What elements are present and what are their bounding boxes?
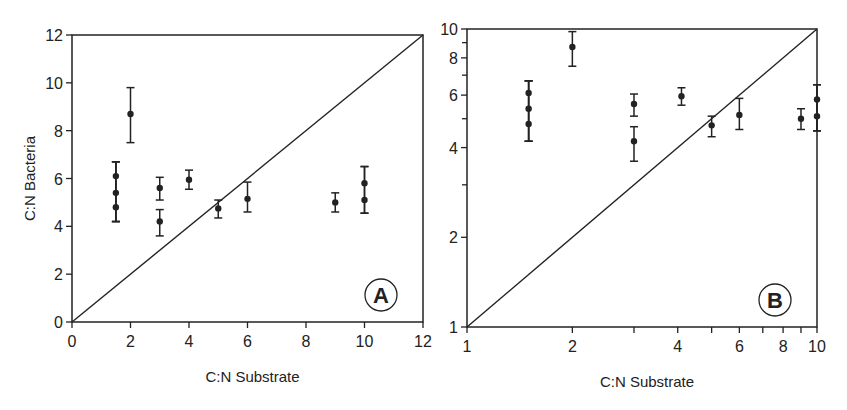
y-tick-label: 10 [440,21,458,38]
x-tick-label: 1 [463,338,472,355]
x-tick-label: 4 [185,333,194,350]
y-tick-label: 2 [54,266,63,283]
x-tick-label: 8 [302,333,311,350]
y-tick-label: 10 [45,75,63,92]
data-point [569,44,575,50]
x-tick-label: 10 [808,338,826,355]
y-tick-label: 6 [54,171,63,188]
y-tick-label: 6 [449,87,458,104]
x-tick-label: 4 [673,338,682,355]
x-axis-label: C:N Substrate [205,368,299,385]
y-tick-label: 4 [449,140,458,157]
data-point [244,196,250,202]
one-to-one-line [72,35,423,322]
data-point [814,113,820,119]
y-tick-label: 1 [449,319,458,336]
x-tick-label: 10 [356,333,374,350]
panel-a-scatter-linear: 024681012024681012C:N SubstrateC:N Bacte… [21,27,432,385]
x-tick-label: 8 [779,338,788,355]
data-point [157,185,163,191]
x-tick-label: 6 [243,333,252,350]
data-point [113,204,119,210]
x-tick-label: 12 [414,333,432,350]
figure: 024681012024681012C:N SubstrateC:N Bacte… [0,0,847,410]
data-point [332,199,338,205]
y-tick-label: 0 [54,314,63,331]
x-tick-label: 2 [126,333,135,350]
data-point [798,116,804,122]
y-tick-label: 8 [54,123,63,140]
data-point [127,111,133,117]
x-axis-label: C:N Substrate [600,373,694,390]
data-point [525,121,531,127]
data-point [157,218,163,224]
one-to-one-line [467,29,817,327]
data-point [186,176,192,182]
data-point [736,112,742,118]
y-tick-label: 8 [449,50,458,67]
x-tick-label: 0 [68,333,77,350]
panel-label: B [767,288,783,313]
y-tick-label: 2 [449,229,458,246]
data-point [361,197,367,203]
data-point [631,138,637,144]
data-point [708,122,714,128]
data-point [215,205,221,211]
y-tick-label: 4 [54,218,63,235]
y-axis-label: C:N Bacteria [21,135,38,221]
x-tick-label: 6 [735,338,744,355]
data-point [678,93,684,99]
chart-canvas: 024681012024681012C:N SubstrateC:N Bacte… [0,0,847,410]
y-tick-label: 12 [45,27,63,44]
data-point [631,101,637,107]
x-tick-label: 2 [568,338,577,355]
panel-b-scatter-log: 12468101246810C:N SubstrateB [440,21,826,390]
panel-label: A [373,283,389,308]
